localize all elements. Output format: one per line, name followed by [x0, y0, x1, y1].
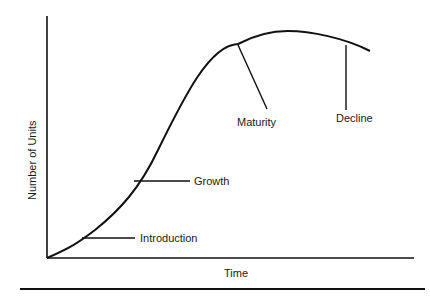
maturity-label: Maturity	[237, 116, 277, 128]
maturity-leader	[238, 45, 267, 109]
y-axis-label: Number of Units	[26, 120, 38, 200]
life-cycle-diagram: Introduction Growth Maturity Decline Tim…	[0, 0, 430, 299]
x-axis-label: Time	[224, 267, 248, 279]
life-cycle-curve	[47, 31, 370, 258]
decline-label: Decline	[336, 112, 373, 124]
growth-label: Growth	[194, 175, 229, 187]
introduction-label: Introduction	[140, 232, 197, 244]
